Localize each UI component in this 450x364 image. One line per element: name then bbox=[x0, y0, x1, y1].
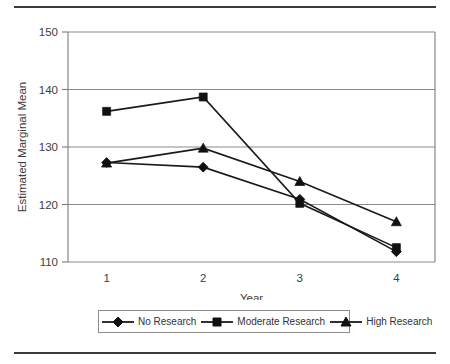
x-tick-label-1: 1 bbox=[103, 272, 109, 284]
y-tick-label-150: 150 bbox=[39, 26, 58, 38]
series-line-2 bbox=[107, 148, 397, 222]
x-tick-label-2: 2 bbox=[200, 272, 206, 284]
y-tick-label-140: 140 bbox=[39, 84, 58, 96]
figure-container: 1101201301401501234YearEstimated Margina… bbox=[0, 0, 450, 364]
series-line-1 bbox=[107, 97, 397, 248]
bottom-rule bbox=[14, 352, 436, 354]
legend-entry-1[interactable]: Moderate Research bbox=[198, 315, 327, 329]
data-point-2-3 bbox=[391, 217, 401, 226]
y-axis-title: Estimated Marginal Mean bbox=[16, 82, 28, 212]
data-point-1-1 bbox=[199, 93, 207, 101]
chart-legend: No ResearchModerate ResearchHigh Researc… bbox=[98, 310, 350, 333]
data-point-1-0 bbox=[103, 107, 111, 115]
legend-label-1: Moderate Research bbox=[237, 316, 325, 327]
y-tick-label-110: 110 bbox=[40, 256, 58, 268]
line-chart: 1101201301401501234YearEstimated Margina… bbox=[0, 0, 450, 300]
square-marker bbox=[200, 315, 234, 329]
data-point-1-2 bbox=[296, 199, 304, 207]
data-point-2-1 bbox=[198, 143, 208, 152]
x-tick-label-4: 4 bbox=[393, 272, 400, 284]
x-tick-label-3: 3 bbox=[297, 272, 303, 284]
diamond-marker bbox=[101, 315, 135, 329]
legend-entry-0[interactable]: No Research bbox=[99, 315, 198, 329]
data-point-0-1 bbox=[198, 162, 208, 172]
y-tick-label-130: 130 bbox=[39, 141, 58, 153]
triangle-marker bbox=[329, 315, 363, 329]
data-point-1-3 bbox=[392, 244, 400, 252]
y-tick-label-120: 120 bbox=[39, 199, 58, 211]
x-axis-title: Year bbox=[240, 292, 263, 300]
series-line-0 bbox=[107, 163, 397, 252]
legend-entry-2[interactable]: High Research bbox=[327, 315, 434, 329]
legend-label-0: No Research bbox=[138, 316, 196, 327]
legend-label-2: High Research bbox=[366, 316, 432, 327]
plot-area: 1101201301401501234YearEstimated Margina… bbox=[0, 0, 450, 300]
